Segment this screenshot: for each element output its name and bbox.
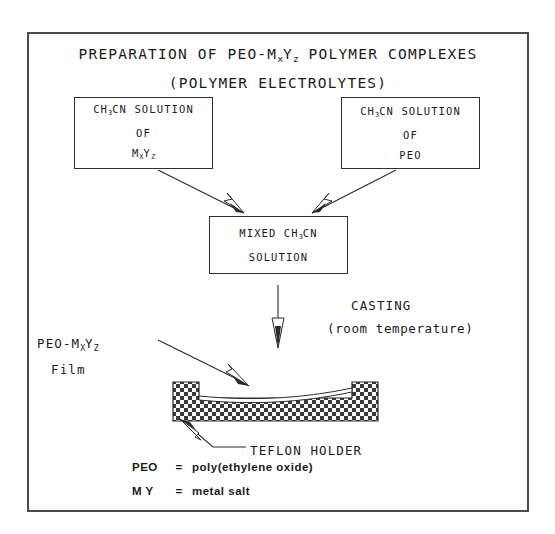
teflon-holder-label: TEFLON HOLDER (250, 440, 362, 461)
box-mixed-solution: MIXED CH3CN SOLUTION (209, 216, 348, 274)
title-line1-pre: PREPARATION OF PEO-M (79, 46, 278, 62)
box-salt-solution: CH3CN SOLUTION OF MXYZ (74, 97, 213, 169)
legend-item-salt: M Y=metal salt (132, 485, 250, 497)
legend-salt-key: M Y (132, 485, 166, 497)
legend-peo-value: poly(ethylene oxide) (192, 461, 313, 473)
box-salt-line-3: MXYZ (132, 143, 155, 167)
box-mixed-line-2: SOLUTION (249, 247, 308, 267)
box-peo-solution: CH3CN SOLUTION OF PEO (341, 97, 480, 169)
box-salt-subscript-z: Z (151, 153, 155, 161)
legend-peo-key: PEO (132, 461, 166, 473)
title-line-2: (POLYMER ELECTROLYTES) (27, 71, 529, 96)
box-salt-ch: CH (93, 103, 108, 115)
legend-salt-equals: = (166, 485, 192, 497)
film-peo-m: PEO-M (37, 336, 80, 351)
casting-sublabel: (room temperature) (327, 318, 473, 339)
box-peo-cn-solution: CN SOLUTION (379, 105, 461, 117)
box-peo-ch: CH (360, 105, 375, 117)
box-salt-cn-solution: CN SOLUTION (112, 103, 194, 115)
box-mixed-cn: CN (303, 227, 318, 239)
box-salt-y: Y (144, 147, 151, 159)
film-label-line-2: Film (51, 359, 99, 381)
box-mixed-line-1: MIXED CH3CN (239, 223, 317, 247)
title-line-1: PREPARATION OF PEO-MxYz POLYMER COMPLEXE… (27, 42, 529, 71)
film-subscript-z: Z (94, 343, 99, 353)
diagram-canvas: PREPARATION OF PEO-MxYz POLYMER COMPLEXE… (0, 0, 555, 534)
box-peo-line-3: PEO (399, 145, 421, 165)
legend-peo-equals: = (166, 461, 192, 473)
box-peo-line-1: CH3CN SOLUTION (360, 101, 461, 125)
box-salt-line-2: OF (136, 123, 151, 143)
box-mixed-prefix: MIXED CH (239, 227, 298, 239)
casting-label: CASTING (351, 295, 411, 316)
film-y: Y (85, 336, 94, 351)
film-label-line-1: PEO-MXYZ (37, 333, 99, 359)
diagram-title: PREPARATION OF PEO-MxYz POLYMER COMPLEXE… (27, 42, 529, 96)
legend-item-peo: PEO=poly(ethylene oxide) (132, 461, 313, 473)
film-label: PEO-MXYZ Film (37, 333, 99, 381)
title-line1-mid: Y (283, 46, 293, 62)
box-salt-line-1: CH3CN SOLUTION (93, 99, 194, 123)
legend-salt-value: metal salt (192, 485, 250, 497)
title-line1-post: POLYMER COMPLEXES (299, 46, 478, 62)
box-peo-line-2: OF (403, 125, 418, 145)
